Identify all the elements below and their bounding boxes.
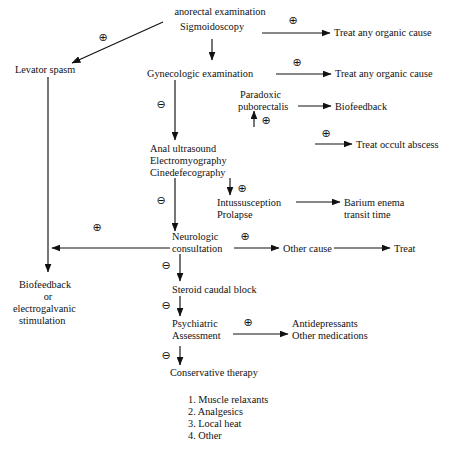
node-biofeedback-egs-line2: or	[44, 291, 53, 302]
node-psychiatric-line2: Assessment	[172, 330, 221, 341]
sign-gynecologic-negative: ⊖	[156, 98, 165, 111]
sign-gynecologic-to-treat: ⊕	[292, 56, 301, 69]
anorectal-pain-algorithm-diagram: ⊕ ⊕ ⊖ ⊕ ⊕ ⊕ ⊖ ⊕ ⊕ ⊕ ⊖ ⊖ ⊕ ⊖ anorectal ex…	[0, 0, 457, 455]
node-biofeedback-egs-line3: electrogalvanic	[13, 303, 76, 314]
sign-sigmoidoscopy-to-treat: ⊕	[288, 14, 297, 27]
node-other-cause: Other cause	[283, 243, 332, 254]
edge-sigmoidoscopy-to-levator-spasm	[72, 22, 163, 63]
sign-anal-studies-negative: ⊖	[156, 194, 165, 207]
therapy-list-item: 3. Local heat	[188, 418, 242, 429]
sign-psychiatric-positive: ⊕	[243, 316, 252, 329]
node-prolapse: Prolapse	[217, 209, 253, 220]
sign-neurologic-negative: ⊖	[161, 259, 170, 272]
node-electromyography: Electromyography	[150, 155, 227, 166]
node-neurologic-line2: consultation	[172, 243, 222, 254]
node-treat-occult-abscess: Treat occult abscess	[356, 139, 439, 150]
node-anal-ultrasound: Anal ultrasound	[150, 143, 217, 154]
node-intussusception: Intussusception	[217, 197, 281, 208]
sign-to-occult-abscess: ⊕	[321, 127, 330, 140]
sign-to-puborectalis: ⊕	[261, 114, 270, 127]
node-treat-organic-cause-1: Treat any organic cause	[334, 27, 432, 38]
sign-neurologic-to-other-cause: ⊕	[240, 230, 249, 243]
flowchart-container: ⊕ ⊕ ⊖ ⊕ ⊕ ⊕ ⊖ ⊕ ⊕ ⊕ ⊖ ⊖ ⊕ ⊖ anorectal ex…	[0, 0, 457, 455]
node-neurologic-line1: Neurologic	[172, 231, 219, 242]
therapy-list-item: 4. Other	[188, 430, 222, 441]
node-antidepressants-line2: Other medications	[292, 330, 368, 341]
node-levator-spasm: Levator spasm	[15, 64, 75, 75]
node-paradoxic-puborectalis-line2: puborectalis	[238, 101, 288, 112]
therapy-list-item: 2. Analgesics	[188, 406, 243, 417]
node-antidepressants-line1: Antidepressants	[292, 318, 358, 329]
node-anorectal-examination-line2: Sigmoidoscopy	[180, 21, 245, 32]
node-treat: Treat	[394, 243, 415, 254]
node-biofeedback-egs-line1: Biofeedback	[19, 279, 72, 290]
node-biofeedback-egs-line4: stimulation	[19, 315, 65, 326]
node-psychiatric-line1: Psychiatric	[172, 318, 218, 329]
sign-psychiatric-negative: ⊖	[161, 349, 170, 362]
sign-to-intussusception: ⊕	[237, 182, 246, 195]
sign-to-levator-spasm: ⊕	[98, 31, 107, 44]
sign-to-biofeedback-egs: ⊕	[92, 221, 101, 234]
node-biofeedback: Biofeedback	[335, 101, 388, 112]
node-barium-enema-line2: transit time	[344, 209, 391, 220]
therapy-list-item: 1. Muscle relaxants	[188, 394, 268, 405]
figure-caption-strip	[0, 445, 457, 455]
node-paradoxic-puborectalis-line1: Paradoxic	[240, 89, 282, 100]
node-gynecologic-examination: Gynecologic examination	[147, 68, 253, 79]
node-treat-organic-cause-2: Treat any organic cause	[335, 68, 433, 79]
node-cinedefecography: Cinedefecography	[150, 167, 226, 178]
node-anorectal-examination-line1: anorectal examination	[174, 6, 265, 17]
node-conservative-therapy: Conservative therapy	[170, 367, 259, 378]
sign-steroid-negative: ⊖	[161, 299, 170, 312]
node-barium-enema-line1: Barium enema	[344, 197, 405, 208]
node-steroid-caudal-block: Steroid caudal block	[172, 284, 257, 295]
